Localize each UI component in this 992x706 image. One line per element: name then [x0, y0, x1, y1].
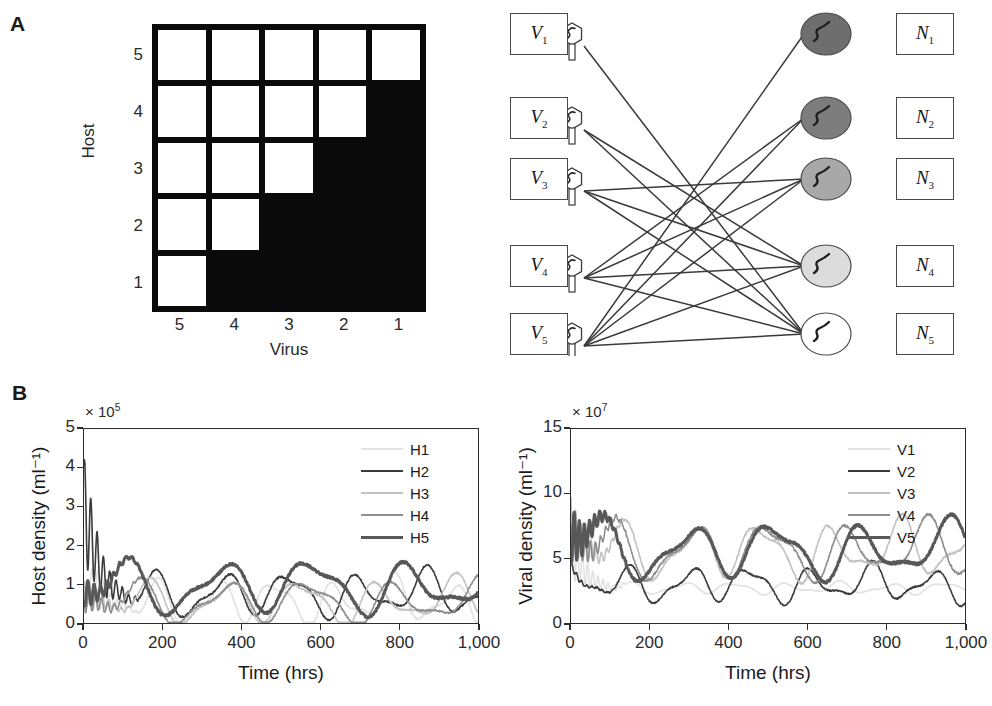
x-axis-title: Time (hrs) [570, 662, 966, 684]
virus-node-box-V2: V2 [510, 97, 568, 139]
y-axis-title: Host density (ml⁻¹) [27, 428, 50, 624]
y-axis-title: Viral density (ml⁻¹) [514, 428, 537, 624]
matrix-row-label: 5 [134, 45, 143, 65]
x-tick-mark [478, 624, 479, 630]
host-cell-N2 [801, 97, 851, 139]
legend-item-V3: V3 [848, 484, 915, 502]
node-label: N2 [916, 106, 934, 130]
matrix-cell-r2-c4 [212, 199, 260, 249]
legend-swatch-H4 [361, 514, 403, 516]
legend-label-V3: V3 [897, 485, 915, 502]
legend-swatch-H3 [361, 492, 403, 494]
x-tick-label: 600 [279, 633, 363, 653]
node-label: V3 [530, 167, 547, 191]
host-cell-N1 [801, 13, 851, 55]
legend-label-V2: V2 [897, 463, 915, 480]
legend-swatch-H1 [361, 448, 403, 450]
matrix-col-label: 3 [284, 315, 293, 335]
y-axis-multiplier-base: × 10 [572, 403, 602, 420]
virus-node-box-V5: V5 [510, 313, 568, 355]
x-tick-mark [649, 624, 650, 630]
matrix-row-label: 4 [134, 102, 143, 122]
legend-item-V2: V2 [848, 462, 915, 480]
y-tick-mark [77, 545, 83, 546]
x-tick-mark [162, 624, 163, 630]
legend-item-H4: H4 [361, 506, 429, 524]
legend-label-V5: V5 [897, 529, 915, 546]
node-label: N1 [916, 22, 934, 46]
legend-label-H3: H3 [410, 485, 429, 502]
y-tick-mark [77, 467, 83, 468]
y-tick-mark [564, 427, 570, 428]
legend-label-H5: H5 [410, 529, 429, 546]
series-line-V2 [571, 560, 965, 606]
x-tick-mark [569, 624, 570, 630]
matrix-cell-r4-c2 [319, 86, 367, 136]
legend-label-V4: V4 [897, 507, 915, 524]
legend-item-H3: H3 [361, 484, 429, 502]
network-edge-V5-N4 [584, 266, 804, 346]
matrix-col-label: 2 [339, 315, 348, 335]
node-label: V2 [530, 106, 547, 130]
x-tick-mark [320, 624, 321, 630]
x-axis-title: Time (hrs) [83, 662, 479, 684]
matrix-cell-r2-c1 [372, 199, 420, 249]
node-label: N3 [916, 167, 934, 191]
y-axis-multiplier: × 107 [572, 402, 607, 420]
host-virus-network: V1V2V3V4V5N1N2N3N4N5 [498, 4, 970, 356]
matrix-col-labels: 54321 [152, 315, 426, 339]
legend-swatch-V5 [848, 536, 890, 539]
matrix-cell-r5-c2 [319, 30, 367, 80]
matrix-cell-r2-c2 [319, 199, 367, 249]
x-tick-label: 0 [528, 633, 612, 653]
matrix-cell-r1-c2 [319, 256, 367, 306]
matrix-y-axis-title: Host [79, 124, 99, 159]
x-tick-label: 1,000 [924, 633, 992, 653]
matrix-cell-r1-c4 [212, 256, 260, 306]
matrix-cell-r1-c3 [265, 256, 313, 306]
legend-item-V4: V4 [848, 506, 915, 524]
matrix-cell-r5-c4 [212, 30, 260, 80]
x-tick-mark [886, 624, 887, 630]
matrix-row-labels: 54321 [113, 27, 143, 311]
matrix-cell-r4-c5 [158, 86, 206, 136]
x-tick-mark [807, 624, 808, 630]
network-edge-V4-N4 [584, 266, 804, 278]
y-tick-mark [564, 558, 570, 559]
network-edge-V5-N5 [584, 334, 804, 346]
x-tick-mark [241, 624, 242, 630]
chart-legend: V1V2V3V4V5 [848, 440, 915, 550]
host-node-box-N2: N2 [896, 97, 954, 139]
matrix-cell-r3-c5 [158, 143, 206, 193]
matrix-cell-r1-c1 [372, 256, 420, 306]
host-cell-N4 [801, 245, 851, 287]
x-tick-mark [399, 624, 400, 630]
infection-matrix [152, 24, 426, 312]
matrix-grid [152, 24, 426, 312]
virus-node-box-V1: V1 [510, 13, 568, 55]
matrix-col-label: 4 [229, 315, 238, 335]
matrix-row-label: 2 [134, 216, 143, 236]
legend-swatch-V1 [848, 448, 890, 450]
legend-swatch-H2 [361, 470, 403, 472]
y-axis-multiplier-base: × 10 [85, 403, 115, 420]
matrix-cell-r5-c5 [158, 30, 206, 80]
host-node-box-N3: N3 [896, 158, 954, 200]
x-tick-label: 400 [199, 633, 283, 653]
node-label: V5 [530, 322, 547, 346]
matrix-cell-r4-c3 [265, 86, 313, 136]
x-tick-label: 800 [845, 633, 929, 653]
legend-item-H5: H5 [361, 528, 429, 546]
host-cell-N5 [801, 313, 851, 355]
matrix-cell-r3-c1 [372, 143, 420, 193]
x-tick-label: 800 [358, 633, 442, 653]
legend-item-H1: H1 [361, 440, 429, 458]
host-node-box-N4: N4 [896, 245, 954, 287]
legend-item-V5: V5 [848, 528, 915, 546]
legend-label-H4: H4 [410, 507, 429, 524]
chart-viral-density: × 10705101502004006008001,000Time (hrs)V… [490, 392, 975, 706]
x-tick-label: 600 [766, 633, 850, 653]
node-label: N5 [916, 322, 934, 346]
legend-label-V1: V1 [897, 441, 915, 458]
matrix-cell-r5-c3 [265, 30, 313, 80]
